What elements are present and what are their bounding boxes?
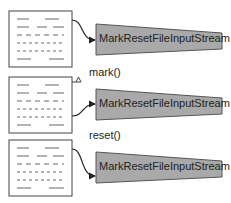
- read-arrow: [72, 20, 95, 40]
- read-arrow: [72, 149, 95, 176]
- stream-class-label: MarkResetFileInputStream: [99, 32, 230, 44]
- file-icon: [9, 11, 72, 67]
- stream-class-label: MarkResetFileInputStream: [99, 97, 230, 109]
- file-icon: [9, 140, 72, 196]
- read-arrow: [72, 104, 95, 116]
- file-icon: [9, 77, 72, 133]
- stream-class-label: MarkResetFileInputStream: [99, 160, 230, 172]
- mark-method-label: mark(): [89, 66, 121, 78]
- reset-method-label: reset(): [89, 129, 121, 141]
- mark-triangle-icon: [76, 77, 81, 82]
